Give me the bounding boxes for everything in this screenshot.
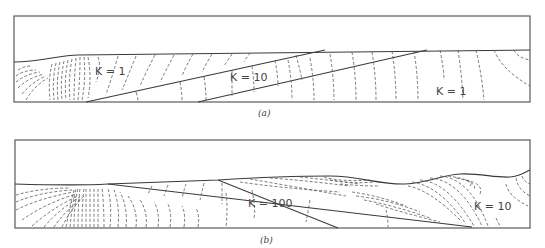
panel-b-label-k100: K = 100 [248,197,292,210]
panel-a-ground-surface [14,50,530,62]
panel-a-label-k1-left: K = 1 [95,65,125,78]
panel-a-label-k10: K = 10 [230,71,267,84]
panel-a: K = 1 K = 10 K = 1 (a) [14,16,530,118]
panel-b-ground-surface [15,170,530,185]
panel-b-caption: (b) [260,235,273,245]
panel-b: K = 100 K = 10 (b) [15,140,530,245]
panel-b-frame [15,140,530,228]
panel-a-caption: (a) [258,108,271,118]
panel-a-label-k1-right: K = 1 [436,85,466,98]
panel-b-label-k10: K = 10 [474,200,511,213]
flow-net-figure: K = 1 K = 10 K = 1 (a) [0,0,545,248]
